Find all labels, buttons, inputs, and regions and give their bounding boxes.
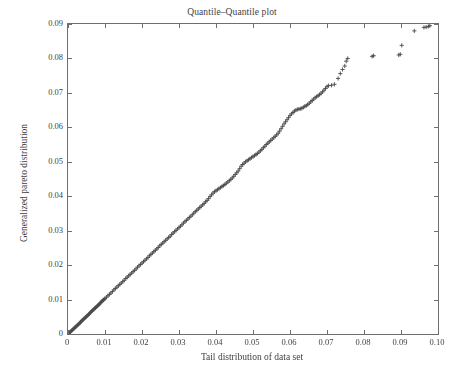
x-axis-tick-top [253, 330, 254, 334]
x-axis-tick [290, 24, 291, 28]
y-axis-tick-label: 0.03 [48, 225, 63, 235]
y-axis-tick [68, 196, 72, 197]
y-axis-tick [68, 58, 72, 59]
y-axis-tick-right [434, 231, 438, 232]
y-axis-tick-label: 0.02 [48, 259, 63, 269]
x-axis-tick-label: 0.06 [282, 337, 297, 347]
y-axis-tick-right [434, 162, 438, 163]
y-axis-tick-label: 0.07 [48, 87, 63, 97]
x-axis-tick-label: 0.05 [245, 337, 260, 347]
x-axis-tick [438, 24, 439, 28]
y-axis-tick-right [434, 196, 438, 197]
y-axis-tick [68, 334, 72, 335]
y-axis-tick-right [434, 24, 438, 25]
y-axis-tick [68, 162, 72, 163]
y-axis-tick-right [434, 127, 438, 128]
x-axis-tick [401, 24, 402, 28]
x-axis-tick-top [105, 330, 106, 334]
x-axis-tick-top [438, 330, 439, 334]
x-axis-tick [216, 24, 217, 28]
x-axis-tick [253, 24, 254, 28]
x-axis-tick [105, 24, 106, 28]
y-axis-tick-label: 0 [59, 328, 63, 338]
x-axis-tick [364, 24, 365, 28]
y-axis-tick-label: 0.08 [48, 52, 63, 62]
x-axis-tick-label: 0.01 [97, 337, 112, 347]
y-axis-tick [68, 231, 72, 232]
x-axis-tick-label: 0.09 [393, 337, 408, 347]
y-axis-tick-label: 0.01 [48, 294, 63, 304]
x-axis-tick-top [327, 330, 328, 334]
plot-area [67, 23, 439, 335]
x-axis-tick-top [290, 330, 291, 334]
y-axis-tick-right [434, 58, 438, 59]
x-axis-tick-top [142, 330, 143, 334]
x-axis-tick-top [364, 330, 365, 334]
y-axis-tick-label: 0.04 [48, 190, 63, 200]
x-axis-tick-top [401, 330, 402, 334]
x-axis-tick [142, 24, 143, 28]
x-axis-label: Tail distribution of data set [67, 352, 437, 362]
y-axis-tick-right [434, 300, 438, 301]
y-axis-tick [68, 24, 72, 25]
x-axis-tick [179, 24, 180, 28]
x-axis-tick-label: 0.07 [319, 337, 334, 347]
x-axis-tick-top [216, 330, 217, 334]
y-axis-tick [68, 127, 72, 128]
x-axis-tick [327, 24, 328, 28]
scatter-data-layer [68, 24, 438, 334]
x-axis-tick-label: 0 [65, 337, 69, 347]
x-axis-tick-label: 0.03 [171, 337, 186, 347]
y-axis-tick [68, 93, 72, 94]
x-axis-tick-label: 0.08 [356, 337, 371, 347]
qq-plot-figure: Quantile–Quantile plot 00.010.020.030.04… [0, 0, 464, 388]
y-axis-tick-right [434, 93, 438, 94]
y-axis-label: Generalized pareto distribution [19, 83, 29, 283]
x-axis-tick-label: 0.04 [208, 337, 223, 347]
y-axis-tick-label: 0.06 [48, 121, 63, 131]
x-axis-tick-top [179, 330, 180, 334]
y-axis-tick-right [434, 265, 438, 266]
y-axis-tick [68, 300, 72, 301]
y-axis-tick [68, 265, 72, 266]
y-axis-tick-label: 0.09 [48, 18, 63, 28]
page-title: Quantile–Quantile plot [0, 7, 464, 17]
x-axis-tick-label: 0.10 [430, 337, 445, 347]
y-axis-tick-right [434, 334, 438, 335]
x-axis-tick-label: 0.02 [134, 337, 149, 347]
y-axis-tick-label: 0.05 [48, 156, 63, 166]
